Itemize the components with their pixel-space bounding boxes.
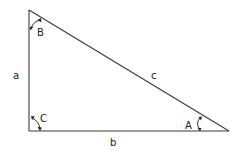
angle-c-label: C [40,113,47,124]
right-triangle-diagram: a b c A B C [0,0,245,151]
angle-b-label: B [37,27,44,38]
side-c [29,10,229,131]
angle-a-label: A [185,120,192,131]
side-a-label: a [13,70,19,81]
angle-a-arc-icon [198,117,203,132]
side-c-label: c [151,70,157,81]
side-b-label: b [110,137,116,148]
